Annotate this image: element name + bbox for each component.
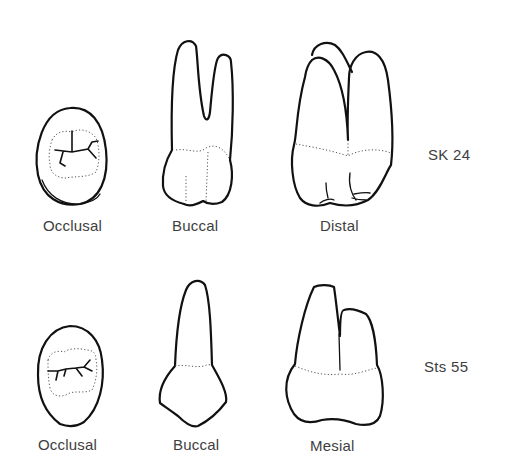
view-label-distal: Distal [320, 217, 359, 234]
view-label-occlusal: Occlusal [43, 217, 102, 234]
view-label-buccal: Buccal [172, 217, 218, 234]
view-label-buccal: Buccal [173, 436, 219, 453]
specimen-label-sk24: SK 24 [428, 146, 470, 163]
view-label-mesial: Mesial [310, 437, 355, 454]
sk24-buccal-drawing [163, 41, 233, 205]
tooth-drawings [0, 0, 522, 472]
specimen-label-sts55: Sts 55 [424, 358, 468, 375]
view-label-occlusal: Occlusal [38, 436, 97, 453]
sk24-distal-drawing [292, 43, 392, 206]
sts55-buccal-drawing [160, 281, 227, 427]
sts55-occlusal-drawing [38, 326, 103, 426]
sts55-mesial-drawing [286, 285, 383, 425]
sk24-occlusal-drawing [37, 108, 107, 205]
